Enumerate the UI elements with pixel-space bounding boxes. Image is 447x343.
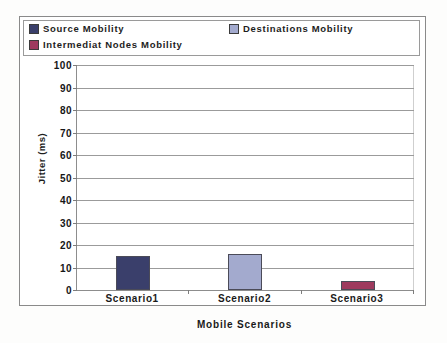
y-axis-tick-labels: 1009080706050403020100	[38, 65, 72, 290]
chart-page: Source Mobility Destinations Mobility In…	[0, 0, 447, 343]
x-axis-tick-scenario1: Scenario1	[76, 293, 188, 304]
legend-item-intermediate-nodes-mobility[interactable]: Intermediat Nodes Mobility	[29, 39, 183, 50]
x-axis-tick-scenario2: Scenario2	[188, 293, 300, 304]
y-axis-tick-90: 90	[38, 82, 72, 93]
y-axis-tick-0: 0	[38, 285, 72, 296]
bar-slot	[77, 65, 189, 290]
bar-group	[77, 65, 414, 290]
legend-item-destinations-mobility[interactable]: Destinations Mobility	[229, 23, 353, 34]
chart-legend: Source Mobility Destinations Mobility In…	[23, 20, 420, 56]
bar-scenario1[interactable]	[116, 256, 150, 290]
y-axis-tick-100: 100	[38, 60, 72, 71]
y-axis-tick-30: 30	[38, 217, 72, 228]
bar-scenario3[interactable]	[341, 281, 375, 290]
x-axis-title: Mobile Scenarios	[76, 319, 413, 330]
y-axis-tick-20: 20	[38, 240, 72, 251]
y-axis-tick-10: 10	[38, 262, 72, 273]
legend-swatch-source-mobility	[29, 24, 39, 34]
chart-frame: Source Mobility Destinations Mobility In…	[19, 16, 426, 306]
y-axis-tick-60: 60	[38, 150, 72, 161]
bar-slot	[302, 65, 414, 290]
legend-label-source-mobility: Source Mobility	[43, 23, 124, 34]
legend-label-intermediate-nodes-mobility: Intermediat Nodes Mobility	[43, 39, 183, 50]
legend-swatch-destinations-mobility	[229, 24, 239, 34]
legend-item-source-mobility[interactable]: Source Mobility	[29, 23, 124, 34]
x-axis-tick-scenario3: Scenario3	[301, 293, 413, 304]
y-axis-tick-80: 80	[38, 105, 72, 116]
legend-swatch-intermediate-nodes-mobility	[29, 40, 39, 50]
y-axis-tick-70: 70	[38, 127, 72, 138]
y-axis-tick-40: 40	[38, 195, 72, 206]
bar-scenario2[interactable]	[228, 254, 262, 290]
x-axis-tick-labels: Scenario1Scenario2Scenario3	[76, 293, 413, 309]
plot-wrapper: Jitter (ms) 1009080706050403020100 Scena…	[20, 57, 425, 305]
plot-area	[76, 65, 414, 291]
legend-label-destinations-mobility: Destinations Mobility	[243, 23, 353, 34]
y-tickmark-0	[73, 290, 77, 291]
bar-slot	[189, 65, 301, 290]
y-axis-tick-50: 50	[38, 172, 72, 183]
x-tickmark	[413, 290, 414, 294]
